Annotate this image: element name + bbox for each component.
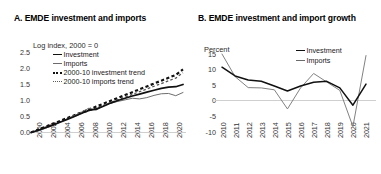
panel-b: B. EMDE investment and import growth Per… (190, 0, 381, 174)
panel-a-line-imports (31, 93, 183, 133)
panel-a-line-investment-trend (31, 69, 183, 132)
panel-b-line-investment (222, 67, 366, 105)
panel-b-series-group (222, 54, 366, 127)
panel-a-plot (0, 0, 190, 174)
panel-b-plot (190, 0, 381, 174)
figure-root: A. EMDE investment and imports Log index… (0, 0, 381, 174)
panel-b-line-imports (222, 54, 366, 127)
panel-a: A. EMDE investment and imports Log index… (0, 0, 190, 174)
panel-a-series-group (31, 69, 183, 132)
panel-a-line-investment (31, 85, 183, 133)
